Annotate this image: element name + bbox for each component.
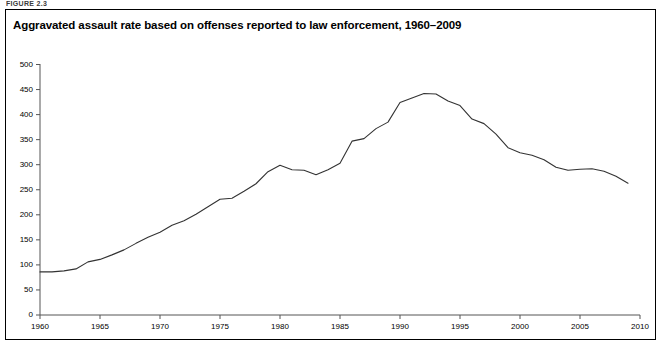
x-axis-tick-label: 1960 — [20, 322, 60, 331]
x-axis-tick-label: 1965 — [80, 322, 120, 331]
y-axis-tick-label: 100 — [9, 260, 33, 269]
y-axis-tick-label: 250 — [9, 185, 33, 194]
y-axis-tick-label: 200 — [9, 210, 33, 219]
x-axis-tick-label: 1980 — [260, 322, 300, 331]
y-axis-tick-label: 300 — [9, 160, 33, 169]
y-axis-tick-label: 500 — [9, 60, 33, 69]
x-axis-tick-label: 1970 — [140, 322, 180, 331]
chart-title: Aggravated assault rate based on offense… — [13, 19, 461, 31]
y-axis-tick-label: 150 — [9, 235, 33, 244]
figure-panel — [5, 9, 656, 340]
y-axis-tick-label: 50 — [9, 285, 33, 294]
x-axis-tick-label: 1975 — [200, 322, 240, 331]
y-axis-tick-label: 450 — [9, 85, 33, 94]
y-axis-tick-label: 350 — [9, 135, 33, 144]
y-axis-tick-label: 0 — [9, 310, 33, 319]
x-axis-tick-label: 2000 — [500, 322, 540, 331]
x-axis-tick-label: 1995 — [440, 322, 480, 331]
x-axis-tick-label: 2005 — [560, 322, 600, 331]
x-axis-tick-label: 1990 — [380, 322, 420, 331]
figure-number-label: FIGURE 2.3 — [6, 0, 47, 7]
x-axis-tick-label: 2010 — [620, 322, 660, 331]
y-axis-tick-label: 400 — [9, 110, 33, 119]
x-axis-tick-label: 1985 — [320, 322, 360, 331]
